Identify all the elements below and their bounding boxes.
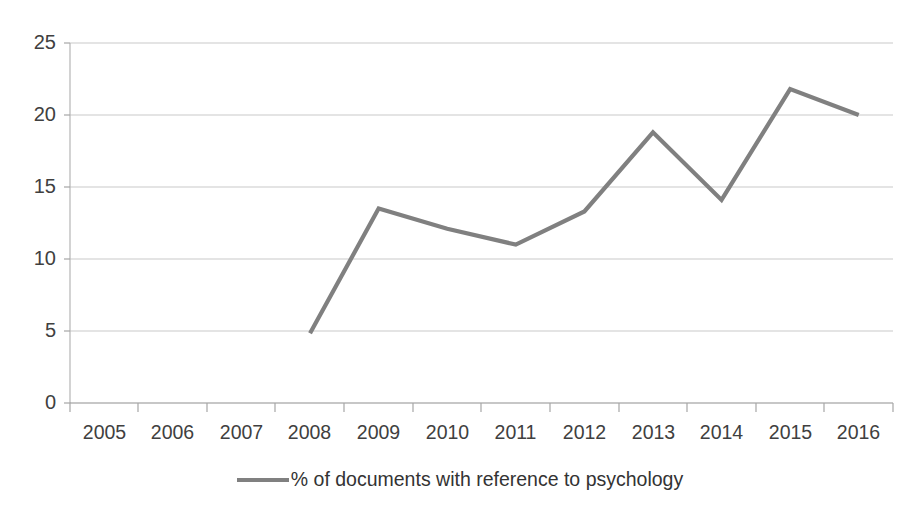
chart-legend: % of documents with reference to psychol… <box>0 468 920 491</box>
y-axis-label-5: 5 <box>10 319 56 342</box>
x-axis-ticks <box>70 403 893 412</box>
y-axis-label-15: 15 <box>10 175 56 198</box>
y-axis-label-0: 0 <box>10 391 56 414</box>
y-axis-ticks <box>64 43 70 403</box>
x-axis-label-2008: 2008 <box>275 421 344 444</box>
y-axis-label-25: 25 <box>10 31 56 54</box>
x-axis-label-2007: 2007 <box>207 421 276 444</box>
x-axis-label-2013: 2013 <box>619 421 688 444</box>
chart-canvas <box>0 0 920 527</box>
x-axis-label-2006: 2006 <box>138 421 207 444</box>
line-chart: 25 20 15 10 5 0 2005 2006 2007 2008 2009… <box>0 0 920 527</box>
x-axis-label-2010: 2010 <box>413 421 482 444</box>
y-axis-label-10: 10 <box>10 247 56 270</box>
x-axis-label-2005: 2005 <box>70 421 139 444</box>
gridlines <box>70 43 893 331</box>
series-line-psychology <box>310 89 859 333</box>
x-axis-label-2016: 2016 <box>824 421 893 444</box>
x-axis-label-2012: 2012 <box>550 421 619 444</box>
x-axis-label-2014: 2014 <box>687 421 756 444</box>
legend-label-psychology: % of documents with reference to psychol… <box>291 468 683 491</box>
x-axis-label-2009: 2009 <box>344 421 413 444</box>
y-axis-label-20: 20 <box>10 103 56 126</box>
x-axis-label-2015: 2015 <box>756 421 825 444</box>
legend-line-swatch <box>237 478 289 482</box>
axis-lines <box>70 43 893 403</box>
x-axis-label-2011: 2011 <box>481 421 550 444</box>
